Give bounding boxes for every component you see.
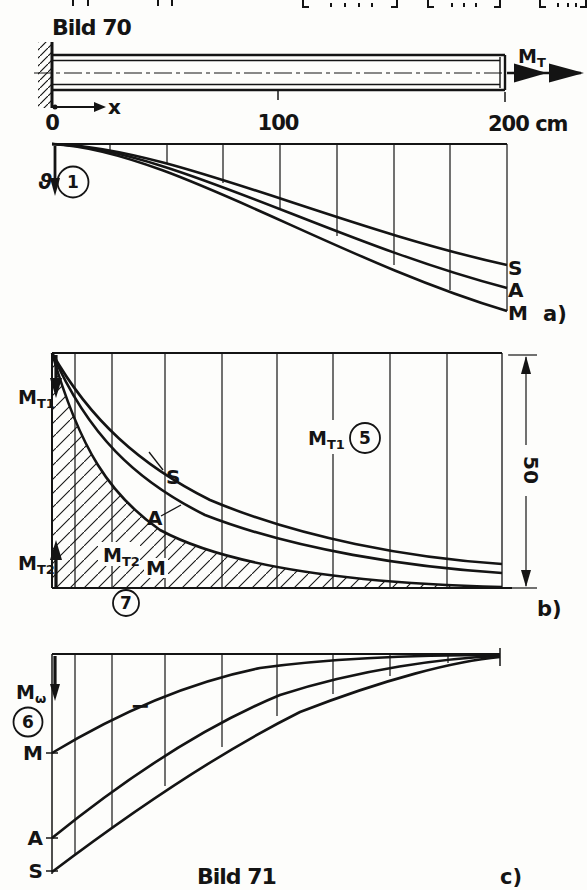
scale-tick-200cm: 200 cm — [488, 112, 568, 136]
plot-c-gridlines — [75, 655, 448, 854]
curve-A — [52, 656, 500, 838]
panel-label-c: c) — [500, 865, 522, 889]
cropped-text-fragment — [73, 0, 586, 7]
scale-tick-100: 100 — [258, 111, 299, 135]
arrowhead-right-icon — [94, 102, 106, 112]
curve-label-S: S — [29, 859, 43, 883]
figure-title-bild71: Bild 71 — [197, 864, 276, 889]
circled-number-5-text: 5 — [359, 428, 371, 448]
curve-label-A: A — [508, 278, 524, 302]
momega-axis-label: Mω — [16, 681, 46, 706]
circled-number-6-text: 6 — [22, 712, 34, 732]
circled-number-6: 6 — [14, 708, 43, 737]
mt1-left-label: MT1 — [18, 386, 55, 411]
dimension-50: 50 — [508, 355, 543, 588]
plot-b-torsion-moment: MT1 MT2 S A M MT2 MT1 5 7 — [18, 353, 562, 621]
circled-number-7-text: 7 — [120, 593, 132, 613]
circled-number-1-text: 1 — [67, 172, 79, 192]
curve-label-A: A — [147, 506, 163, 530]
theta-axis-label: ϑ — [38, 170, 52, 194]
dimension-50-label: 50 — [519, 456, 543, 484]
figure-title-bild70: Bild 70 — [52, 15, 132, 40]
figure-canvas: Bild 70 x MT — [0, 0, 587, 890]
minus-sign: − — [130, 692, 150, 720]
curve-label-S: S — [508, 256, 522, 280]
panel-label-b: b) — [537, 597, 562, 621]
curve-label-A: A — [28, 826, 44, 850]
mt2-left-label: MT2 — [18, 552, 55, 577]
wall-hatching — [38, 42, 52, 108]
plot-a-twist-angle: ϑ 1 S A M a) — [38, 144, 567, 326]
x-axis-label: x — [108, 95, 121, 119]
scanned-figure-page: Bild 70 x MT — [0, 0, 587, 890]
curve-label-S: S — [166, 465, 180, 489]
beam-diagram: x MT 0 100 200 cm — [34, 42, 584, 136]
circled-number-1: 1 — [58, 167, 89, 198]
curve-label-M: M — [23, 741, 43, 765]
plot-c-curves — [52, 655, 500, 872]
torque-label: MT — [518, 45, 546, 70]
arrowhead-right-icon — [549, 64, 584, 83]
curve-label-M: M — [146, 556, 166, 580]
panel-label-a: a) — [543, 302, 567, 326]
leader-line-A — [161, 505, 181, 516]
x-axis-arrow — [53, 102, 107, 112]
curve-label-M: M — [508, 301, 528, 325]
beam-scale-ticks — [278, 91, 505, 102]
arrowhead-down-icon — [521, 570, 531, 587]
plot-c-warping-moment: Mω 6 M A S − Bild 71 c) — [14, 648, 523, 889]
scale-tick-0: 0 — [45, 111, 59, 135]
circled-number-7: 7 — [113, 590, 139, 616]
curve-S — [52, 657, 500, 872]
arrowhead-up-icon — [521, 356, 531, 374]
